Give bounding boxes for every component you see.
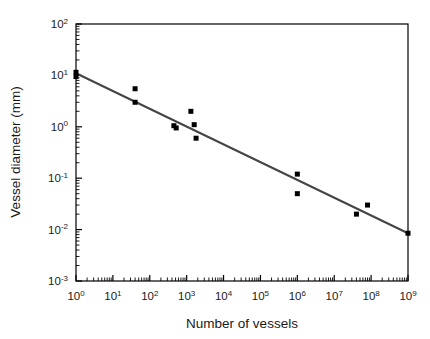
- data-point-11: [354, 212, 359, 217]
- data-point-12: [365, 203, 370, 208]
- scatter-plot: 100101102103104105106107108109 10-310-21…: [0, 0, 430, 339]
- data-point-6: [188, 109, 193, 114]
- data-point-9: [295, 172, 300, 177]
- data-point-5: [174, 125, 179, 130]
- data-point-3: [133, 100, 138, 105]
- data-point-2: [133, 86, 138, 91]
- data-point-10: [295, 191, 300, 196]
- x-axis-title: Number of vessels: [186, 316, 298, 331]
- data-point-7: [192, 122, 197, 127]
- data-point-0: [74, 70, 79, 75]
- data-point-8: [194, 136, 199, 141]
- data-point-1: [74, 74, 79, 79]
- y-axis-title: Vessel diameter (mm): [8, 86, 23, 217]
- chart-figure: 100101102103104105106107108109 10-310-21…: [0, 0, 430, 339]
- data-point-13: [406, 231, 411, 236]
